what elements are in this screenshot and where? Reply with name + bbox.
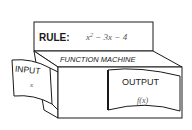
- output-label: OUTPUT: [122, 77, 160, 87]
- machine-title: FUNCTION MACHINE: [60, 55, 136, 64]
- rule-label: RULE:: [39, 32, 70, 43]
- output-card: OUTPUT f(x): [108, 69, 180, 111]
- rule-box: RULE: x2 − 3x − 4: [34, 22, 153, 51]
- function-machine-diagram: RULE: x2 − 3x − 4 FUNCTION MACHINE INPUT…: [0, 0, 192, 130]
- output-value: f(x): [137, 96, 148, 105]
